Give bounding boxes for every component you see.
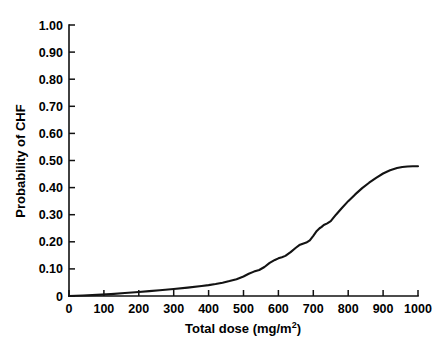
x-axis-title: Total dose (mg/m2) xyxy=(185,320,301,336)
x-tick-label: 700 xyxy=(303,302,324,316)
y-tick-label: 0.60 xyxy=(39,127,63,141)
x-tick-label: 0 xyxy=(66,302,73,316)
y-tick-label: 0.90 xyxy=(39,46,63,60)
x-tick-label: 100 xyxy=(93,302,114,316)
x-axis-title-tail: ) xyxy=(297,321,301,336)
y-tick-label: 0.50 xyxy=(39,154,63,168)
y-tick-label: 0.30 xyxy=(39,208,63,222)
x-axis-title-group: Total dose (mg/m2) xyxy=(185,320,301,336)
y-axis-title-group: Probability of CHF xyxy=(13,104,28,217)
x-tick-label: 500 xyxy=(233,302,254,316)
y-tick-label: 0.80 xyxy=(39,73,63,87)
x-tick-label: 300 xyxy=(163,302,184,316)
x-axis-title-base: Total dose (mg/m xyxy=(185,321,292,336)
x-tick-label: 1000 xyxy=(404,302,432,316)
y-tick-label: 1.00 xyxy=(39,19,63,33)
x-tick-label: 800 xyxy=(338,302,359,316)
chart-figure: 00.100.200.300.400.500.600.700.800.901.0… xyxy=(0,0,446,351)
probability-of-chf-line-chart: 00.100.200.300.400.500.600.700.800.901.0… xyxy=(0,0,446,351)
x-tick-label: 900 xyxy=(373,302,394,316)
x-tick-label: 200 xyxy=(128,302,149,316)
y-axis-title: Probability of CHF xyxy=(13,104,28,217)
x-tick-label: 600 xyxy=(268,302,289,316)
y-tick-label: 0.40 xyxy=(39,181,63,195)
x-tick-label: 400 xyxy=(198,302,219,316)
y-tick-label: 0 xyxy=(56,290,63,304)
y-tick-label: 0.70 xyxy=(39,100,63,114)
y-tick-label: 0.20 xyxy=(39,235,63,249)
y-tick-label: 0.10 xyxy=(39,262,63,276)
